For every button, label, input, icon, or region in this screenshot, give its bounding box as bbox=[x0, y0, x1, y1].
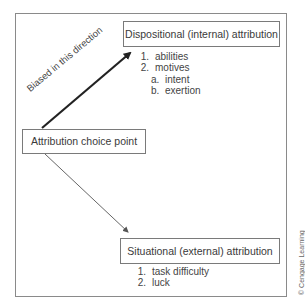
list-text: luck bbox=[152, 277, 170, 288]
dispositional-attribution-box: Dispositional (internal) attribution bbox=[123, 21, 280, 47]
attribution-choice-point-label: Attribution choice point bbox=[31, 136, 137, 147]
list-number: 1. bbox=[134, 266, 146, 277]
list-subitem: b. exertion bbox=[137, 85, 201, 96]
list-text: task difficulty bbox=[152, 266, 209, 277]
list-number: 1. bbox=[137, 51, 149, 62]
list-text: abilities bbox=[155, 51, 188, 62]
situational-attribution-label: Situational (external) attribution bbox=[127, 246, 272, 257]
list-subitem: a. intent bbox=[137, 74, 201, 85]
attribution-choice-point-box: Attribution choice point bbox=[22, 129, 146, 154]
list-item: 2. motives bbox=[137, 62, 201, 73]
list-text: motives bbox=[155, 62, 189, 73]
list-letter: a. bbox=[151, 74, 159, 85]
list-text: exertion bbox=[165, 85, 201, 96]
list-letter: b. bbox=[151, 85, 159, 96]
situational-attribution-box: Situational (external) attribution bbox=[120, 238, 280, 264]
list-number: 2. bbox=[137, 62, 149, 73]
list-number: 2. bbox=[134, 277, 146, 288]
list-item: 1. abilities bbox=[137, 51, 201, 62]
copyright-notice: © Cengage Learning bbox=[298, 230, 305, 295]
list-item: 1. task difficulty bbox=[134, 266, 209, 277]
situational-arrow bbox=[45, 154, 128, 232]
list-item: 2. luck bbox=[134, 277, 209, 288]
list-text: intent bbox=[165, 74, 189, 85]
dispositional-factors-list: 1. abilities 2. motives a. intent b. exe… bbox=[137, 51, 201, 96]
dispositional-attribution-label: Dispositional (internal) attribution bbox=[125, 29, 278, 40]
situational-factors-list: 1. task difficulty 2. luck bbox=[134, 266, 209, 289]
